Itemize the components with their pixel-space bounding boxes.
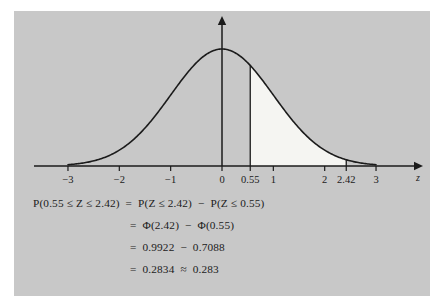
- equation-block: P(0.55 ≤ Z ≤ 2.42) = P(Z ≤ 2.42) − P(Z ≤…: [14, 193, 430, 296]
- equation-line-1: P(0.55 ≤ Z ≤ 2.42) = P(Z ≤ 2.42) − P(Z ≤…: [33, 197, 264, 209]
- x-tick-label: −2: [114, 174, 125, 185]
- x-tick-label: 0.55: [241, 174, 259, 185]
- x-tick-label: −1: [165, 174, 176, 185]
- shaded-region: [250, 25, 346, 166]
- x-tick-label: 2.42: [337, 174, 355, 185]
- equation-line-3: = 0.9922 − 0.7088: [130, 241, 225, 253]
- figure-panel: −3−2−100.55122.423 z P(0.55 ≤ Z ≤ 2.42) …: [14, 11, 430, 296]
- x-axis-tick-labels: −3−2−100.55122.423: [62, 174, 378, 185]
- y-axis-arrow-icon: [218, 16, 226, 25]
- normal-distribution-chart: −3−2−100.55122.423 z: [14, 11, 430, 196]
- shaded-region-group: [250, 25, 346, 166]
- x-tick-label: 1: [271, 174, 276, 185]
- x-axis-arrow-icon: [414, 162, 423, 170]
- equation-line-2: = Φ(2.42) − Φ(0.55): [130, 219, 234, 231]
- x-tick-label: 0: [219, 174, 224, 185]
- x-axis-label: z: [415, 172, 420, 183]
- x-tick-label: −3: [62, 174, 73, 185]
- x-tick-label: 3: [373, 174, 378, 185]
- x-tick-label: 2: [322, 174, 327, 185]
- chart-svg: −3−2−100.55122.423 z: [14, 11, 430, 196]
- equation-line-4: = 0.2834 ≈ 0.283: [130, 263, 219, 275]
